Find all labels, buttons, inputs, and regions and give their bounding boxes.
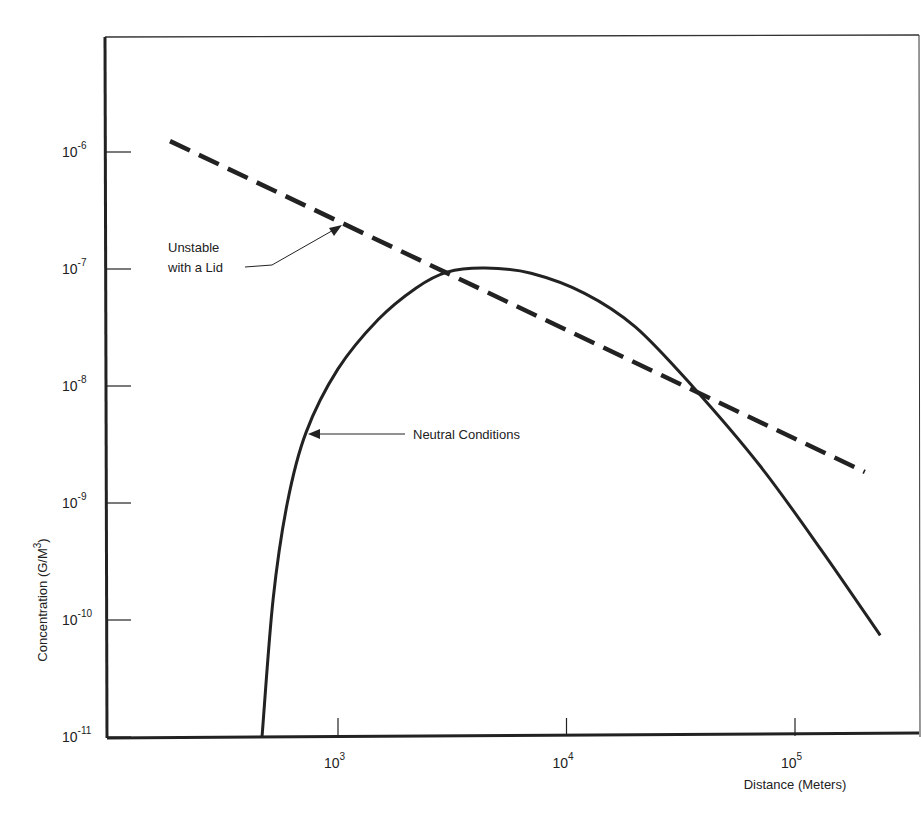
y-tick-label: 10-6: [62, 140, 87, 160]
annotation-unstable-line2: with a Lid: [167, 260, 223, 275]
x-axis-title: Distance (Meters): [744, 777, 847, 792]
neutral-arrowhead-icon: [308, 429, 320, 439]
y-tick-label: 10-9: [62, 491, 87, 511]
y-tick-label: 10-11: [62, 725, 92, 745]
annotation-unstable-line1: Unstable: [168, 240, 219, 255]
y-axis-title: Concentration (G/M3): [32, 538, 50, 661]
y-tick-label: 10-7: [62, 257, 87, 277]
x-tick-label: 103: [324, 751, 346, 771]
series-unstable-with-lid: [170, 141, 865, 472]
x-tick-label: 105: [781, 751, 803, 771]
series-neutral-conditions: [262, 268, 880, 737]
plot-top-border: [105, 35, 919, 37]
y-tick-label: 10-10: [62, 608, 92, 628]
x-tick-label: 104: [553, 751, 575, 771]
x-axis: [107, 733, 919, 738]
concentration-chart: 10-610-710-810-910-1010-11 103104105 Uns…: [0, 0, 921, 813]
unstable-arrow-line: [245, 228, 337, 267]
unstable-arrowhead-icon: [329, 225, 342, 236]
y-axis-ticks: 10-610-710-810-910-1010-11: [62, 140, 131, 745]
plot-right-border: [919, 35, 920, 737]
x-axis-ticks: 103104105: [324, 718, 803, 771]
annotation-neutral: Neutral Conditions: [413, 427, 520, 442]
y-tick-label: 10-8: [62, 374, 87, 394]
y-axis: [105, 37, 107, 738]
